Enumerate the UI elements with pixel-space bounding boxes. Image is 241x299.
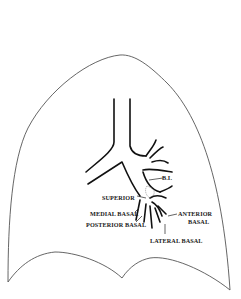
label-superior: SUPERIOR <box>102 195 135 201</box>
label-medial-basal: MEDIAL BASAL <box>90 211 138 217</box>
lung-diagram <box>0 0 241 299</box>
label-posterior-basal: POSTERIOR BASAL <box>86 222 146 228</box>
label-anterior-basal-1: ANTERIOR <box>178 211 212 217</box>
label-bi: B.I. <box>162 175 172 181</box>
label-anterior-basal-2: BASAL <box>188 219 209 225</box>
label-lateral-basal: LATERAL BASAL <box>150 238 203 244</box>
lung-outline <box>8 55 230 290</box>
bronchial-tree <box>86 99 172 228</box>
